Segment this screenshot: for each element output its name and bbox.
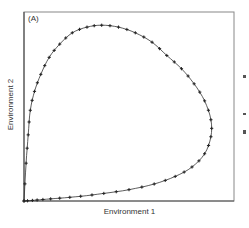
x-axis-label: Environment 1	[0, 207, 249, 216]
plot-area	[0, 0, 249, 228]
axes-frame	[24, 12, 234, 201]
y-axis-label: Environment 2	[6, 65, 15, 145]
trajectory-markers	[22, 24, 213, 203]
trajectory-line	[24, 25, 212, 201]
adjacent-panel-fragment	[243, 75, 249, 135]
panel-label: (A)	[28, 14, 39, 23]
